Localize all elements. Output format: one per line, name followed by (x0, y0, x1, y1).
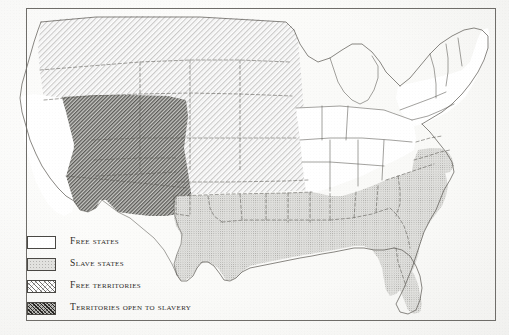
legend-swatch-slave-states (27, 258, 56, 271)
region-territories-open-to-slavery (62, 95, 192, 216)
legend-label-free-territories: Free territories (70, 281, 141, 291)
map-page: Free states Slave states Free territorie… (0, 0, 509, 335)
legend-item-free-states: Free states (27, 231, 277, 253)
legend-item-slave-states: Slave states (27, 253, 277, 275)
legend-label-territories-open-to-slavery: Territories open to slavery (70, 303, 191, 313)
legend-swatch-free-states (27, 236, 56, 249)
legend: Free states Slave states Free territorie… (27, 231, 277, 319)
legend-swatch-territories-open-to-slavery (27, 302, 56, 315)
legend-item-territories-open-to-slavery: Territories open to slavery (27, 297, 277, 319)
legend-label-slave-states: Slave states (70, 259, 124, 269)
legend-item-free-territories: Free territories (27, 275, 277, 297)
legend-swatch-free-territories (27, 280, 56, 293)
legend-label-free-states: Free states (70, 237, 119, 247)
